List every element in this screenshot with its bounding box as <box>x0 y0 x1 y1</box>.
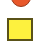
canvas <box>0 0 42 45</box>
yellow-square-icon[interactable] <box>7 18 33 41</box>
orange-circle-icon[interactable] <box>11 0 31 7</box>
